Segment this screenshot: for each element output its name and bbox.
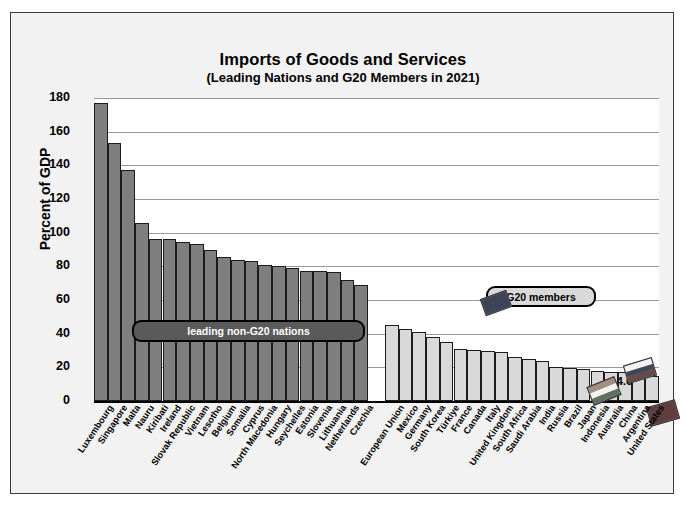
bar[interactable] (536, 361, 550, 401)
bar[interactable] (522, 359, 536, 401)
y-tick-label: 80 (24, 258, 70, 272)
bar[interactable] (385, 325, 399, 401)
y-tick-label: 120 (24, 191, 70, 205)
bar[interactable] (508, 357, 522, 401)
title-block: Imports of Goods and Services (Leading N… (11, 49, 675, 86)
bar[interactable] (645, 376, 659, 401)
chart-page: Imports of Goods and Services (Leading N… (0, 0, 685, 516)
page-title: Imports of Goods and Services (11, 49, 675, 69)
bar[interactable] (481, 351, 495, 402)
bar[interactable] (94, 103, 108, 401)
bar[interactable] (454, 349, 468, 401)
y-tick-label: 140 (24, 157, 70, 171)
y-tick-label: 40 (24, 326, 70, 340)
bar[interactable] (354, 285, 368, 401)
bar[interactable] (426, 337, 440, 401)
x-axis-category-labels: LuxembourgSingaporeMaltaNauruKiribatiIre… (94, 403, 659, 513)
y-tick-label: 160 (24, 124, 70, 138)
y-tick-label: 0 (24, 393, 70, 407)
bar[interactable] (121, 170, 135, 401)
y-tick-label: 60 (24, 292, 70, 306)
y-tick-label: 180 (24, 90, 70, 104)
bar[interactable] (440, 342, 454, 401)
bar[interactable] (467, 350, 481, 401)
bar[interactable] (563, 368, 577, 401)
bar[interactable] (135, 223, 149, 401)
y-tick-label: 100 (24, 225, 70, 239)
y-tick-label: 20 (24, 359, 70, 373)
chart-frame: Imports of Goods and Services (Leading N… (10, 12, 674, 494)
bar[interactable] (495, 352, 509, 401)
legend-non-g20-nations: leading non-G20 nations (132, 320, 365, 342)
bar[interactable] (549, 367, 563, 402)
plot-area: 180160140120100806040200 leading non-G20… (94, 98, 659, 403)
bars-layer (94, 98, 659, 401)
bar[interactable] (108, 143, 122, 401)
bar[interactable] (399, 329, 413, 401)
bar[interactable] (577, 369, 591, 401)
chart-subtitle: (Leading Nations and G20 Members in 2021… (11, 69, 675, 86)
bar[interactable] (412, 332, 426, 401)
